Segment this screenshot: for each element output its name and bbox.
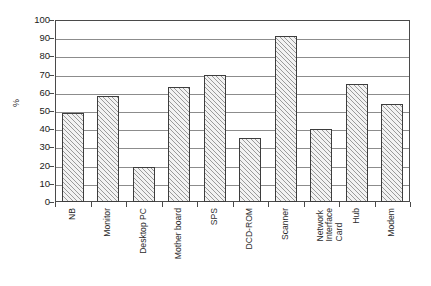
x-axis-tickmark xyxy=(55,202,56,207)
y-axis-tick-labels: 1009080706050403020100 xyxy=(22,20,50,202)
x-axis-tickmark xyxy=(162,202,163,207)
x-axis-tickmark xyxy=(126,202,127,207)
bar xyxy=(133,167,155,202)
bar xyxy=(97,96,119,202)
x-axis-tickmark xyxy=(268,202,269,207)
bars-layer xyxy=(55,20,410,202)
bar xyxy=(239,138,261,202)
y-axis-title: % xyxy=(11,93,21,113)
x-axis-tick-label: Scanner xyxy=(281,208,290,240)
y-axis-tickmark xyxy=(49,93,54,94)
bar xyxy=(62,113,84,202)
y-axis-tick-label: 100 xyxy=(34,15,50,25)
x-axis-tickmark xyxy=(339,202,340,207)
y-axis-tickmark xyxy=(49,147,54,148)
bar xyxy=(310,129,332,202)
x-axis-tick-label: NB xyxy=(68,208,77,220)
bar-chart: % 1009080706050403020100 NBMonitorDeskto… xyxy=(0,0,431,286)
y-axis-tickmark xyxy=(49,75,54,76)
y-axis-tickmark xyxy=(49,129,54,130)
y-axis-tickmark xyxy=(49,56,54,57)
bar xyxy=(275,36,297,202)
y-axis-tickmark xyxy=(49,166,54,167)
x-axis-tick-label: Network Interface Card xyxy=(316,208,344,241)
x-axis-tickmark xyxy=(375,202,376,207)
x-axis-tickmark xyxy=(233,202,234,207)
x-axis-tickmark xyxy=(410,202,411,207)
x-axis-tickmark xyxy=(304,202,305,207)
y-axis-tickmark xyxy=(49,20,54,21)
x-axis-tickmark xyxy=(197,202,198,207)
y-axis-tickmark xyxy=(49,202,54,203)
bar xyxy=(381,104,403,202)
bar xyxy=(204,75,226,202)
x-axis-tick-labels: NBMonitorDesktop PCMother boardSPSDCD-RO… xyxy=(55,208,410,286)
x-axis-tick-label: Modem xyxy=(387,208,396,237)
bar xyxy=(168,87,190,202)
x-axis-tick-label: Monitor xyxy=(103,208,112,237)
x-axis-tick-label: Mother board xyxy=(174,208,183,259)
bar xyxy=(346,84,368,202)
x-axis-tickmark xyxy=(91,202,92,207)
y-axis-tickmark xyxy=(49,184,54,185)
x-axis-tick-label: DCD-ROM xyxy=(245,208,254,250)
x-axis-tick-label: Desktop PC xyxy=(139,208,148,254)
y-axis-tickmark xyxy=(49,38,54,39)
x-axis-tick-label: SPS xyxy=(210,208,219,225)
x-axis-tick-label: Hub xyxy=(352,208,361,224)
y-axis-tickmark xyxy=(49,111,54,112)
